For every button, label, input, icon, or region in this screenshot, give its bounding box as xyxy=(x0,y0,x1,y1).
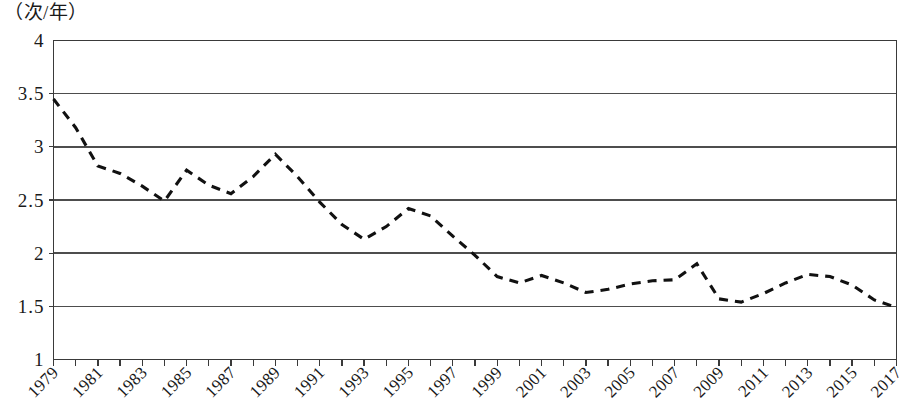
data-series-line xyxy=(54,99,897,307)
x-axis-tick-label: 2017 xyxy=(867,363,904,401)
x-axis-tick-label: 2011 xyxy=(734,363,772,401)
gridline-group xyxy=(54,94,897,307)
y-axis-tick-label: 3 xyxy=(34,136,45,157)
x-axis-tick-label: 1983 xyxy=(113,363,151,401)
x-axis-tick-label: 1997 xyxy=(423,363,461,401)
y-axis-tick-label: 2.5 xyxy=(18,190,45,211)
x-axis-tick-label: 1987 xyxy=(201,363,239,401)
x-axis-tick-label: 2003 xyxy=(556,363,594,401)
x-axis-tick-label: 1985 xyxy=(157,363,195,401)
y-axis-tick-label: 1.5 xyxy=(18,296,45,317)
x-axis-tick-label: 2009 xyxy=(690,363,728,401)
y-axis-tick-label: 2 xyxy=(34,243,45,264)
x-axis-tick-label: 2007 xyxy=(645,363,683,401)
x-axis-tick-label: 1989 xyxy=(246,363,284,401)
x-axis-tick-label: 1979 xyxy=(24,363,62,401)
y-axis-tick-label: 1 xyxy=(34,349,45,370)
y-axis-tick-label-group: 43.532.521.51 xyxy=(18,30,54,370)
x-axis-tick-label-group: 1979198119831985198719891991199319951997… xyxy=(24,363,904,401)
line-chart: （次/年） 43.532.521.51 19791981198319851987… xyxy=(0,0,904,409)
x-axis-tick-label: 2015 xyxy=(823,363,861,401)
x-axis-tick-label: 1993 xyxy=(335,363,373,401)
x-axis-tick-label: 2013 xyxy=(778,363,816,401)
x-axis-tick-label: 2001 xyxy=(512,363,550,401)
x-axis-tick-label: 1981 xyxy=(68,363,106,401)
chart-plot-area: 43.532.521.51 19791981198319851987198919… xyxy=(0,0,904,409)
x-axis-tick-label: 1991 xyxy=(290,363,328,401)
x-axis-tick-label: 1999 xyxy=(468,363,506,401)
y-axis-tick-label: 3.5 xyxy=(18,83,45,104)
x-axis-tick-label: 2005 xyxy=(601,363,639,401)
x-axis-tick-label: 1995 xyxy=(379,363,417,401)
y-axis-tick-label: 4 xyxy=(34,30,45,51)
